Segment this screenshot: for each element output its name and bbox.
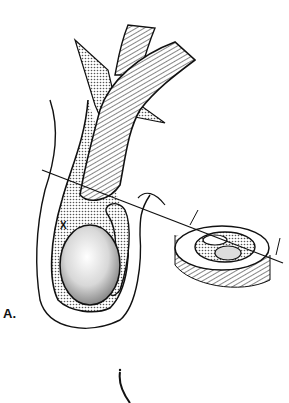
x-marker-label: X (60, 220, 67, 231)
anatomical-illustration (0, 0, 289, 403)
cross-section (175, 210, 280, 287)
panel-label: A. (3, 306, 16, 321)
next-figure-stroke (120, 372, 130, 403)
lead-line (138, 193, 165, 205)
testis (60, 225, 120, 305)
